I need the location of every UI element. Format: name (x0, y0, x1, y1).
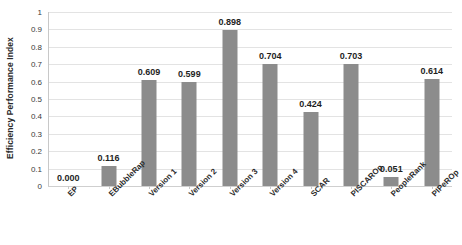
x-axis-tick-label: Version 3 (228, 192, 234, 198)
bar[interactable] (424, 79, 439, 186)
y-axis-tick-label: 0.5 (31, 95, 42, 104)
bar[interactable] (101, 166, 116, 186)
y-axis-tick-label: 0.8 (31, 42, 42, 51)
bar[interactable] (343, 64, 358, 186)
y-axis-tick-labels: 10.90.80.70.60.50.40.30.20.10 (18, 12, 44, 186)
bar-value-label: 0.609 (138, 67, 161, 77)
x-axis-tick-label: Version 4 (268, 192, 274, 198)
bar[interactable] (222, 30, 237, 186)
bar-value-label: 0.116 (98, 153, 120, 163)
y-axis-tick-label: 0.2 (31, 147, 42, 156)
y-axis-tick-label: 0.3 (31, 129, 42, 138)
x-axis-tick-label: PISCAROp (349, 192, 355, 198)
y-axis-tick-label: 0 (38, 182, 42, 191)
bar-value-label: 0.000 (57, 173, 80, 183)
y-axis-tick-label: 0.1 (31, 164, 42, 173)
bar-value-label: 0.703 (340, 51, 363, 61)
x-axis-tick-label: PeopleRank (389, 192, 395, 198)
y-axis-title-text: Efficiency Performance Index (5, 37, 15, 159)
y-axis-tick-label: 0.4 (31, 112, 42, 121)
y-axis-title: Efficiency Performance Index (2, 0, 18, 196)
x-axis-tick-label: Version 2 (187, 192, 193, 198)
x-axis-tick-label: EBubbleRap (107, 192, 113, 198)
bar-slot[interactable]: 0.000 (48, 12, 88, 186)
bar-value-label: 0.614 (421, 66, 444, 76)
bar-value-label: 0.599 (178, 69, 201, 79)
bar-slot[interactable]: 0.609 (129, 12, 169, 186)
bar-value-label: 0.424 (299, 99, 322, 109)
x-axis-tick-label: Version 1 (147, 192, 153, 198)
bar-slot[interactable]: 0.704 (250, 12, 290, 186)
x-axis-tick-labels: EPEBubbleRapVersion 1Version 2Version 3V… (48, 186, 452, 245)
bar-slot[interactable]: 0.424 (290, 12, 330, 186)
bar-slot[interactable]: 0.703 (331, 12, 371, 186)
bar[interactable] (141, 80, 156, 186)
plot-area: 0.0000.1160.6090.5990.8980.7040.4240.703… (48, 12, 452, 186)
x-axis-tick-label: SCAR (309, 192, 315, 198)
x-axis-tick-label: EP (66, 192, 72, 198)
bar-slot[interactable]: 0.898 (210, 12, 250, 186)
bar-value-label: 0.704 (259, 51, 282, 61)
y-axis-tick-label: 0.6 (31, 77, 42, 86)
bar-slot[interactable]: 0.599 (169, 12, 209, 186)
bar-slot[interactable]: 0.614 (412, 12, 452, 186)
bar-slot[interactable]: 0.116 (88, 12, 128, 186)
bar-series: 0.0000.1160.6090.5990.8980.7040.4240.703… (48, 12, 452, 186)
y-axis-tick-label: 0.9 (31, 25, 42, 34)
y-axis-tick-label: 1 (38, 8, 42, 17)
bar[interactable] (263, 64, 278, 186)
bar[interactable] (303, 112, 318, 186)
y-axis-tick-label: 0.7 (31, 60, 42, 69)
bar-chart: Efficiency Performance Index 10.90.80.70… (0, 0, 462, 245)
x-axis-tick-label: PIPeROp (430, 192, 436, 198)
bar-value-label: 0.898 (219, 17, 242, 27)
bar-slot[interactable]: 0.051 (371, 12, 411, 186)
bar[interactable] (182, 82, 197, 186)
